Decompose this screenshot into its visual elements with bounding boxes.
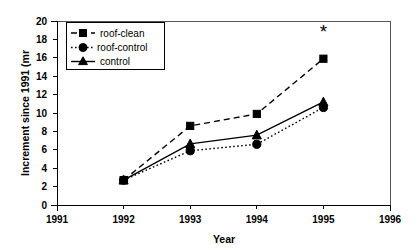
x-axis-title: Year xyxy=(213,233,235,245)
x-axis-ticks xyxy=(57,205,390,211)
x-tick-label: 1992 xyxy=(112,214,135,225)
series-line-roof-control xyxy=(124,107,324,180)
series-line-control xyxy=(124,102,324,180)
y-tick-label: 6 xyxy=(41,144,47,155)
chart-container: 20 18 16 14 12 10 8 6 4 2 0 1991 1992 19… xyxy=(0,0,419,251)
x-tick-label: 1994 xyxy=(246,214,269,225)
y-axis-ticks xyxy=(51,21,57,205)
data-point-roof-clean-1994 xyxy=(253,110,260,117)
legend-entry-roof-control[interactable]: roof-control xyxy=(71,42,148,53)
y-axis-title: Increment since 1991 (mr xyxy=(19,50,31,176)
y-tick-labels: 20 18 16 14 12 10 8 6 4 2 0 xyxy=(36,16,48,211)
x-tick-labels: 1991 1992 1993 1994 1995 1996 xyxy=(46,214,402,225)
y-tick-label: 12 xyxy=(36,89,48,100)
legend-label: roof-clean xyxy=(100,28,144,39)
data-point-roof-control-1994 xyxy=(253,140,261,148)
series-layer xyxy=(119,55,328,184)
y-tick-label: 10 xyxy=(36,108,48,119)
series-line-roof-clean xyxy=(124,59,324,180)
chart-legend: roof-clean roof-control control xyxy=(66,22,164,69)
annotation-layer: * xyxy=(320,21,328,42)
y-tick-label: 16 xyxy=(36,52,48,63)
data-point-roof-clean-1993 xyxy=(187,122,194,129)
significance-asterisk: * xyxy=(320,21,328,42)
data-point-roof-clean-1995 xyxy=(320,55,327,62)
line-chart: 20 18 16 14 12 10 8 6 4 2 0 1991 1992 19… xyxy=(0,0,419,251)
x-tick-label: 1991 xyxy=(46,214,69,225)
y-tick-label: 2 xyxy=(41,181,47,192)
y-tick-label: 0 xyxy=(41,200,47,211)
square-marker-icon xyxy=(80,30,87,37)
x-tick-label: 1993 xyxy=(179,214,202,225)
series-control xyxy=(119,97,328,184)
x-tick-label: 1996 xyxy=(379,214,402,225)
y-tick-label: 8 xyxy=(41,126,47,137)
circle-marker-icon xyxy=(79,44,87,52)
x-tick-label: 1995 xyxy=(312,214,335,225)
data-point-control-1994 xyxy=(252,130,261,139)
y-tick-label: 14 xyxy=(36,71,48,82)
legend-entry-roof-clean[interactable]: roof-clean xyxy=(71,28,144,39)
y-tick-label: 4 xyxy=(41,163,47,174)
data-point-control-1995 xyxy=(319,97,328,106)
y-tick-label: 20 xyxy=(36,16,48,27)
legend-label: control xyxy=(100,56,130,67)
y-tick-label: 18 xyxy=(36,34,48,45)
legend-label: roof-control xyxy=(97,42,148,53)
